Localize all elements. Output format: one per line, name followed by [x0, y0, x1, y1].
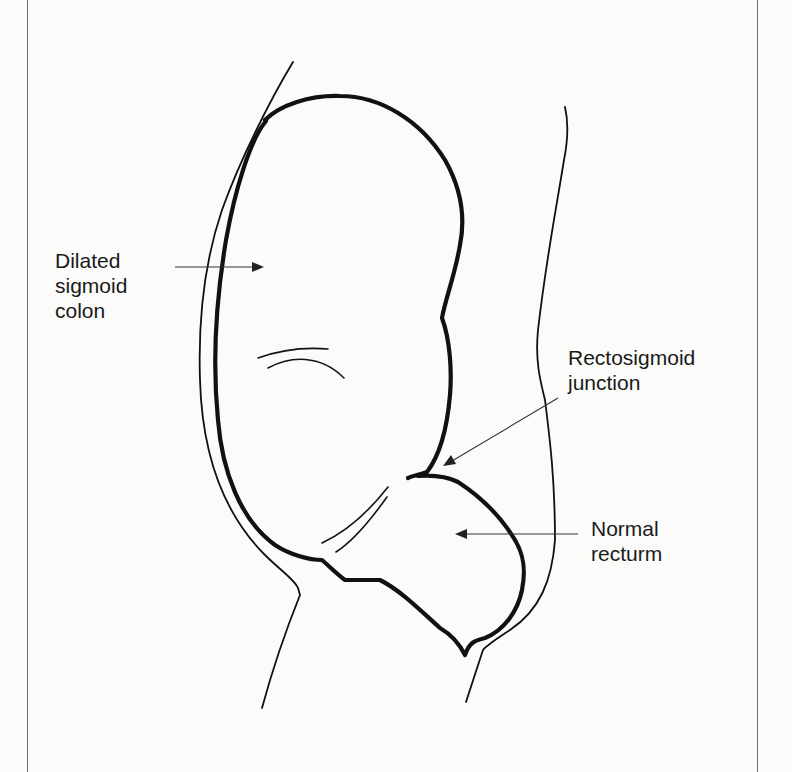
- label-line: Rectosigmoid: [568, 345, 695, 370]
- colon-fold-lower-2: [336, 497, 387, 552]
- dilated-colon-arrowhead-icon: [252, 262, 264, 272]
- label-rectosigmoid-junction: Rectosigmoid junction: [568, 345, 695, 395]
- sigmoid-colon-outline: [215, 96, 524, 655]
- junction-leader-line: [452, 398, 558, 461]
- label-line: recturm: [591, 541, 662, 566]
- label-line: colon: [55, 298, 127, 323]
- label-normal-rectum: Normal recturm: [591, 516, 662, 566]
- rectum-arrowhead-icon: [455, 529, 467, 539]
- label-line: junction: [568, 370, 695, 395]
- junction-arrowhead-icon: [443, 455, 456, 466]
- colon-fold-upper-2: [268, 359, 344, 378]
- colon-fold-upper-1: [258, 348, 328, 358]
- label-dilated-sigmoid-colon: Dilated sigmoid colon: [55, 248, 127, 323]
- body-wall-right: [466, 107, 567, 702]
- label-line: Normal: [591, 516, 662, 541]
- label-line: Dilated: [55, 248, 127, 273]
- label-line: sigmoid: [55, 273, 127, 298]
- colon-fold-lower-1: [322, 487, 388, 543]
